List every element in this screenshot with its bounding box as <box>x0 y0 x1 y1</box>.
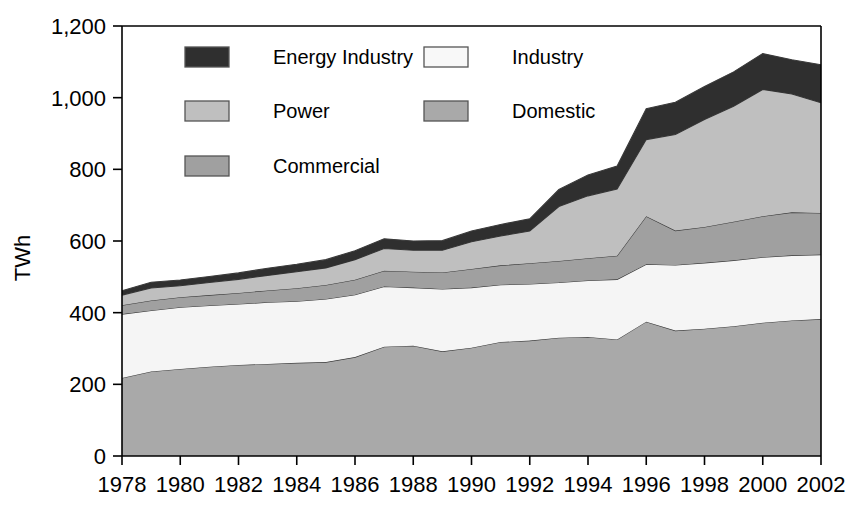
legend-swatch-energy-industry <box>185 47 229 67</box>
legend-label-commercial: Commercial <box>273 155 380 177</box>
y-tick-label: 600 <box>69 229 106 254</box>
y-axis-ticks: 02004006008001,0001,200 <box>51 14 122 469</box>
x-tick-label: 1994 <box>564 472 613 497</box>
y-tick-label: 800 <box>69 157 106 182</box>
x-tick-label: 1988 <box>389 472 438 497</box>
x-tick-label: 1978 <box>98 472 147 497</box>
legend-swatch-power <box>185 101 229 121</box>
y-tick-label: 1,000 <box>51 86 106 111</box>
y-axis-title: TWh <box>10 235 35 281</box>
x-tick-label: 1982 <box>214 472 263 497</box>
legend-swatch-commercial <box>185 156 229 176</box>
stacked-area-chart: 02004006008001,0001,200 1978198019821984… <box>0 0 862 519</box>
x-tick-label: 2000 <box>738 472 787 497</box>
legend-label-industry: Industry <box>512 46 583 68</box>
chart-figure: 02004006008001,0001,200 1978198019821984… <box>0 0 862 519</box>
x-tick-label: 1984 <box>272 472 321 497</box>
x-tick-label: 2002 <box>797 472 846 497</box>
x-tick-label: 1986 <box>331 472 380 497</box>
x-tick-label: 1996 <box>622 472 671 497</box>
y-tick-label: 200 <box>69 372 106 397</box>
legend-label-energy-industry: Energy Industry <box>273 46 413 68</box>
y-tick-label: 0 <box>94 444 106 469</box>
x-tick-label: 1992 <box>505 472 554 497</box>
x-tick-label: 1990 <box>447 472 496 497</box>
legend-swatch-domestic <box>424 101 468 121</box>
legend-label-power: Power <box>273 100 330 122</box>
x-axis-ticks: 1978198019821984198619881990199219941996… <box>98 456 846 497</box>
legend-swatch-industry <box>424 47 468 67</box>
x-tick-label: 1998 <box>680 472 729 497</box>
y-tick-label: 1,200 <box>51 14 106 39</box>
x-tick-label: 1980 <box>156 472 205 497</box>
legend-label-domestic: Domestic <box>512 100 595 122</box>
y-tick-label: 400 <box>69 301 106 326</box>
